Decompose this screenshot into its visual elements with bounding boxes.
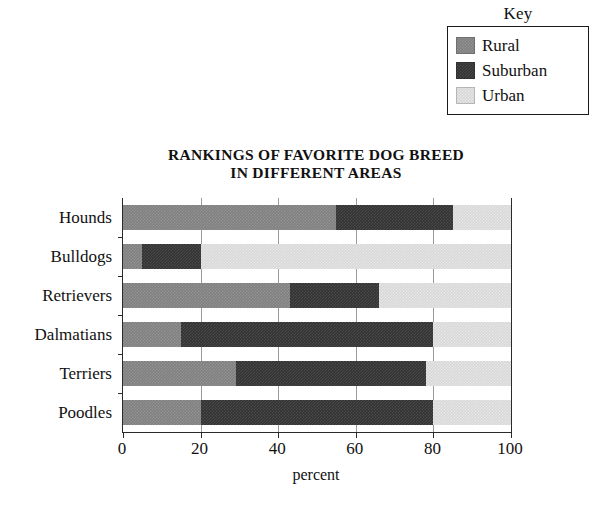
bar-segment-urban <box>433 400 511 425</box>
grid-line <box>278 198 279 432</box>
bar-segment-urban <box>453 205 511 230</box>
y-axis-category-label: Poodles <box>0 400 112 425</box>
bar-segment-rural <box>123 400 201 425</box>
y-axis-tick <box>118 276 123 277</box>
grid-line <box>511 198 512 432</box>
grid-line <box>356 198 357 432</box>
bar-row <box>123 400 511 425</box>
x-axis-tick-label: 80 <box>402 439 462 459</box>
x-axis-tick-label: 100 <box>480 439 540 459</box>
x-axis-tick <box>201 432 202 438</box>
y-axis-tick <box>118 354 123 355</box>
grid-line <box>433 198 434 432</box>
y-axis-tick <box>118 393 123 394</box>
bar-segment-suburban <box>290 283 379 308</box>
x-axis-tick <box>123 432 124 438</box>
x-axis-tick <box>278 432 279 438</box>
bar-segment-urban <box>433 322 511 347</box>
x-axis-tick-label: 60 <box>325 439 385 459</box>
y-axis-category-label: Terriers <box>0 361 112 386</box>
bar-segment-rural <box>123 322 181 347</box>
x-axis-tick <box>511 432 512 438</box>
bar-segment-suburban <box>236 361 426 386</box>
bar-segment-urban <box>201 244 511 269</box>
y-axis-category-label: Dalmatians <box>0 322 112 347</box>
bar-segment-suburban <box>181 322 433 347</box>
bar-segment-suburban <box>201 400 434 425</box>
bar-segment-rural <box>123 205 336 230</box>
y-axis-category-label: Retrievers <box>0 283 112 308</box>
grid-line <box>201 198 202 432</box>
x-axis-tick-label: 0 <box>92 439 152 459</box>
bar-segment-rural <box>123 361 236 386</box>
bar-row <box>123 205 511 230</box>
y-axis-category-label: Bulldogs <box>0 244 112 269</box>
bar-segment-urban <box>379 283 511 308</box>
y-axis-tick <box>118 237 123 238</box>
bar-row <box>123 244 511 269</box>
y-axis-tick <box>118 315 123 316</box>
bar-row <box>123 361 511 386</box>
bar-segment-urban <box>426 361 511 386</box>
x-axis-tick-label: 20 <box>170 439 230 459</box>
y-axis-category-label: Hounds <box>0 205 112 230</box>
bar-row <box>123 322 511 347</box>
x-axis-title: percent <box>122 466 510 484</box>
x-axis-tick <box>433 432 434 438</box>
bar-segment-suburban <box>142 244 200 269</box>
plot-area <box>122 198 511 433</box>
x-axis-tick <box>356 432 357 438</box>
bar-segment-suburban <box>336 205 452 230</box>
bar-segment-rural <box>123 244 142 269</box>
x-axis-tick-label: 40 <box>247 439 307 459</box>
chart-plot: 020406080100HoundsBulldogsRetrieversDalm… <box>0 0 594 506</box>
bar-row <box>123 283 511 308</box>
bar-segment-rural <box>123 283 290 308</box>
